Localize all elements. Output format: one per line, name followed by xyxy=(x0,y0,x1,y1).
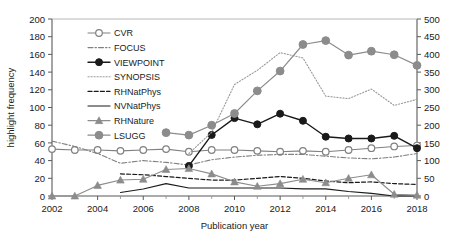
data-point xyxy=(231,147,238,154)
legend: CVRFOCUSVIEWPOINTSYNOPSISRHNatPhysNVNatP… xyxy=(88,28,165,140)
legend-label-lsugg: LSUGG xyxy=(114,131,146,141)
legend-label-rhnatphys: RHNatPhys xyxy=(114,87,162,97)
x-tick-label: 2018 xyxy=(406,203,427,214)
series-lsugg xyxy=(162,37,421,139)
legend-swatch-marker xyxy=(96,30,103,37)
data-point xyxy=(413,61,421,69)
legend-label-nvnatphys: NVNatPhys xyxy=(114,101,161,111)
data-point xyxy=(300,148,307,155)
y-tick-label-right: 250 xyxy=(424,102,440,113)
data-point xyxy=(117,148,124,155)
y-tick-label-right: 150 xyxy=(424,138,440,149)
series-viewpoint xyxy=(185,110,420,169)
x-tick-label: 2002 xyxy=(41,203,62,214)
x-axis-title: Publication year xyxy=(201,220,269,231)
data-point xyxy=(277,110,284,117)
legend-swatch-marker xyxy=(96,59,103,66)
y-axis-right-ticks: 050100150200250300350400450500 xyxy=(417,14,440,202)
data-point xyxy=(368,145,375,152)
series-line xyxy=(189,53,417,154)
y-tick-label-left: 120 xyxy=(29,84,45,95)
y-tick-label-right: 50 xyxy=(424,173,435,184)
chart-container: 0204060801001201401601802000501001502002… xyxy=(0,0,453,244)
legend-label-viewpoint: VIEWPOINT xyxy=(114,58,165,68)
axes xyxy=(52,19,417,196)
legend-label-cvr: CVR xyxy=(114,28,134,38)
data-point xyxy=(391,132,398,139)
data-point xyxy=(231,110,239,118)
data-point xyxy=(185,131,193,139)
data-point xyxy=(276,67,284,75)
data-point xyxy=(140,147,147,154)
data-point xyxy=(254,121,261,128)
legend-label-focus: FOCUS xyxy=(114,43,146,53)
y-tick-label-left: 0 xyxy=(40,191,45,202)
data-point xyxy=(368,171,376,178)
data-point xyxy=(345,147,352,154)
data-point xyxy=(163,146,170,153)
y-tick-label-right: 400 xyxy=(424,49,440,60)
data-point xyxy=(299,41,307,49)
y-tick-label-left: 140 xyxy=(29,67,45,78)
data-point xyxy=(49,146,56,153)
y-tick-label-right: 0 xyxy=(424,191,429,202)
y-tick-label-left: 40 xyxy=(34,155,45,166)
y-tick-label-left: 200 xyxy=(29,14,45,25)
series-cvr xyxy=(49,142,421,155)
x-tick-label: 2012 xyxy=(270,203,291,214)
y-tick-label-right: 100 xyxy=(424,155,440,166)
x-tick-label: 2016 xyxy=(361,203,382,214)
y-tick-label-right: 500 xyxy=(424,14,440,25)
data-point xyxy=(208,121,216,129)
data-point xyxy=(367,47,375,55)
data-point xyxy=(299,117,306,124)
data-point xyxy=(162,129,170,137)
y-tick-label-left: 100 xyxy=(29,102,45,113)
data-point xyxy=(322,37,330,45)
y-tick-label-right: 350 xyxy=(424,67,440,78)
series-line xyxy=(166,41,417,136)
x-tick-label: 2010 xyxy=(224,203,245,214)
data-point xyxy=(414,145,421,152)
y-tick-label-left: 20 xyxy=(34,173,45,184)
legend-swatch-marker xyxy=(95,131,103,139)
data-point xyxy=(253,87,261,95)
data-point xyxy=(390,51,398,59)
legend-label-synopsis: SYNOPSIS xyxy=(114,72,160,82)
x-axis-ticks: 200220042006200820102012201420162018 xyxy=(41,196,427,214)
y-tick-label-right: 200 xyxy=(424,120,440,131)
series-layer xyxy=(48,37,421,199)
y-tick-label-left: 80 xyxy=(34,120,45,131)
legend-label-rhnature: RHNature xyxy=(114,116,154,126)
y-axis-title: highlight frequency xyxy=(5,67,16,147)
y-tick-label-left: 60 xyxy=(34,138,45,149)
y-tick-label-right: 450 xyxy=(424,31,440,42)
data-point xyxy=(254,148,261,155)
y-tick-label-left: 180 xyxy=(29,31,45,42)
data-point xyxy=(322,133,329,140)
data-point xyxy=(208,147,215,154)
data-point xyxy=(368,135,375,142)
data-point xyxy=(391,143,398,150)
y-tick-label-left: 160 xyxy=(29,49,45,60)
x-tick-label: 2014 xyxy=(315,203,336,214)
data-point xyxy=(345,135,352,142)
data-point xyxy=(322,148,329,155)
x-tick-label: 2008 xyxy=(178,203,199,214)
x-tick-label: 2006 xyxy=(133,203,154,214)
line-chart: 0204060801001201401601802000501001502002… xyxy=(0,0,453,244)
y-axis-left-ticks: 020406080100120140160180200 xyxy=(29,14,52,202)
x-tick-label: 2004 xyxy=(87,203,108,214)
data-point xyxy=(345,51,353,59)
series-synopsis xyxy=(189,53,417,154)
y-tick-label-right: 300 xyxy=(424,84,440,95)
